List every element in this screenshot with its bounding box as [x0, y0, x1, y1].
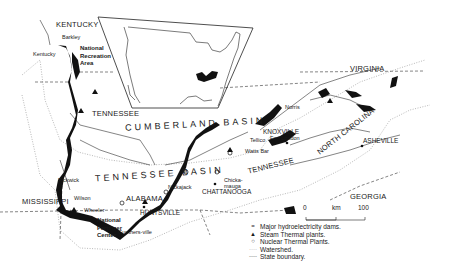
label-nickajack: Nickajack [168, 185, 192, 191]
label-pickwick: Pickwick [58, 178, 79, 184]
scale-end: 100 [358, 205, 369, 212]
scale-start: 0 [303, 205, 307, 212]
dam-icon: = [246, 223, 260, 231]
reservoirs [56, 45, 398, 240]
triangle-icon: ▲ [246, 231, 260, 239]
map-legend: = Major hydroelectricity dams. ▲ Steam T… [246, 223, 341, 261]
inset-us-map [98, 17, 253, 108]
label-tennessee-north: TENNESSEE [92, 110, 139, 118]
legend-item-nuclear: ○ Nuclear Thermal Plants. [246, 238, 341, 246]
legend-item-dams: = Major hydroelectricity dams. [246, 223, 341, 231]
label-georgia: GEORGIA [350, 193, 386, 201]
label-virginia: VIRGINIA [350, 65, 385, 73]
legend-item-steam: ▲ Steam Thermal plants. [246, 231, 341, 239]
label-wilson: Wilson [74, 196, 91, 202]
label-guntersville: Gunthers-ville [118, 230, 152, 236]
legend-item-watershed: ···· Watershed. [246, 246, 341, 254]
scale-bar [306, 217, 365, 220]
label-chattanooga: CHATTANOOGA [202, 189, 251, 196]
label-huntsville: HUNTSVILLE [140, 210, 180, 217]
legend-item-state-boundary: ---- State boundary. [246, 253, 341, 261]
label-national-recreation-area: National Recreation Area [80, 45, 111, 68]
label-national-fertilizer-center: National Fertilizer Center [97, 217, 122, 240]
label-chickamauga-2: mauga [224, 184, 241, 190]
inset-tva-region [196, 71, 218, 82]
label-watts-bar: Watts Bar [245, 149, 269, 155]
label-alabama: ALABAMA [126, 195, 163, 203]
label-norris: Norris [285, 105, 300, 111]
dashed-line-icon: ---- [246, 253, 260, 261]
label-tellico: Tellico [250, 138, 265, 144]
label-mississippi: MISSISSIPPI [22, 198, 69, 206]
label-wheeler: Wheeler [84, 208, 104, 214]
label-asheville: ASHEVILLE [363, 138, 398, 145]
label-kentucky-dam: Kentucky [33, 52, 56, 58]
label-barkley: Barkley [62, 35, 80, 41]
watershed-boundary [22, 60, 430, 250]
circle-icon: ○ [246, 238, 260, 246]
dotted-line-icon: ···· [246, 246, 260, 254]
label-kentucky: KENTUCKY [56, 21, 98, 29]
scale-unit: km [332, 205, 341, 212]
label-fort-loudon: Fort Loudon [270, 136, 300, 142]
